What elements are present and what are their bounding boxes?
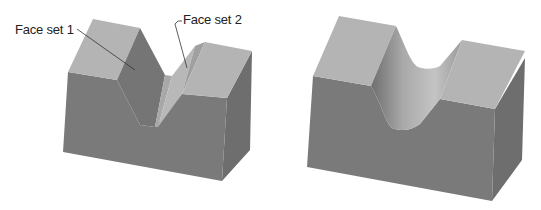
leader-line-face-set-2: [175, 21, 187, 68]
label-face-set-1: Face set 1: [15, 22, 74, 37]
rounded-groove-block: [307, 16, 525, 201]
v-notch-block: [63, 19, 252, 181]
figure-canvas: [0, 0, 541, 210]
label-face-set-2: Face set 2: [183, 12, 242, 27]
